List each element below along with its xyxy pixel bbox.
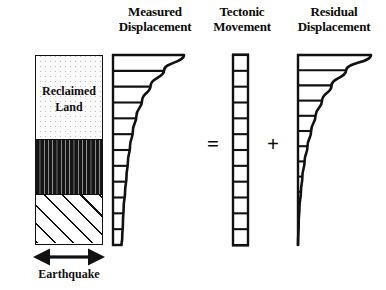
equals-operator: = [203,134,223,155]
heading-residual-line2: Displacement [286,19,382,34]
heading-measured-line1: Measured [128,4,182,19]
residual-rung-group [298,55,371,207]
plus-operator: + [263,134,283,155]
soil-layer-reclaimed-land [36,56,102,140]
heading-residual-displacement: Residual Displacement [286,4,382,34]
tectonic-rung-group [232,55,249,245]
displacement-decomposition-figure: Measured Displacement Tectonic Movement … [0,0,386,290]
soil-label-reclaimed: Reclaimed [36,84,102,98]
heading-measured-line2: Displacement [108,19,202,34]
double-headed-horizontal-arrow-icon [33,248,105,266]
soil-layer-sand [36,140,102,195]
heading-tectonic-line1: Tectonic [220,4,265,19]
residual-displacement-curve [298,55,371,245]
profile-residual-displacement [293,52,377,248]
soil-layer-bedrock [36,195,102,243]
heading-residual-line1: Residual [311,4,358,19]
soil-profile-column: Reclaimed Land [35,55,103,245]
profile-measured-displacement [108,52,188,248]
heading-tectonic-movement: Tectonic Movement [203,4,281,34]
earthquake-annotation: Earthquake [33,248,105,288]
heading-measured-displacement: Measured Displacement [108,4,202,34]
heading-tectonic-line2: Movement [203,19,281,34]
soil-label-land: Land [36,100,102,114]
profile-tectonic-movement [228,52,258,248]
earthquake-label: Earthquake [27,267,111,281]
measured-displacement-curve [122,55,184,245]
